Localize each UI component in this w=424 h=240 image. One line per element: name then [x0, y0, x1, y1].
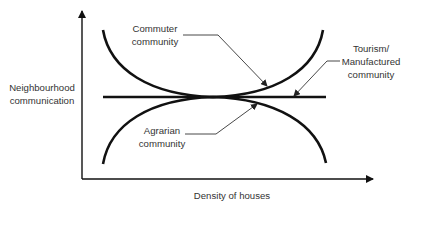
agrarian-leader — [185, 104, 257, 134]
commuter-label-line-2: community — [125, 35, 185, 48]
tourism-label-line-3: community — [335, 68, 407, 81]
y-axis-label-line-2: communication — [2, 94, 82, 107]
commuter-label: Commuter community — [125, 22, 185, 48]
tourism-label-line-2: Manufactured — [335, 55, 407, 68]
tourism-label: Tourism/ Manufactured community — [335, 42, 407, 81]
x-axis-label: Density of houses — [182, 189, 282, 202]
commuter-label-line-1: Commuter — [125, 22, 185, 35]
y-axis-label: Neighbourhood communication — [2, 81, 82, 107]
agrarian-label: Agrarian community — [132, 124, 192, 150]
commuter-leader — [183, 35, 267, 86]
agrarian-label-line-1: Agrarian — [132, 124, 192, 137]
tourism-label-line-1: Tourism/ — [335, 42, 407, 55]
x-axis-label-text: Density of houses — [182, 189, 282, 202]
y-axis-label-line-1: Neighbourhood — [2, 81, 82, 94]
tourism-leader — [294, 61, 340, 96]
agrarian-label-line-2: community — [132, 137, 192, 150]
